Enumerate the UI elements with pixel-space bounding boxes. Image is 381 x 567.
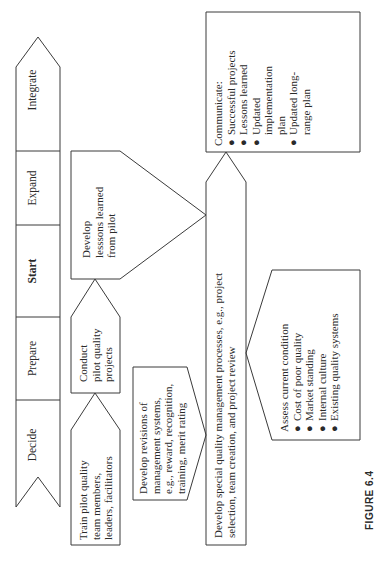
lessons-line: Develop [80,187,93,258]
diagram-shapes [0,0,381,567]
bullet-icon: ● [303,421,316,432]
lessons-box: Develop lesssons learned from pilot [80,187,118,258]
stage-arrow-bar [16,37,60,507]
assess-bullet: ●Market standing [303,313,316,432]
conduct-line: projects [102,329,115,382]
conduct-box: Conduct pilot quality projects [77,329,115,382]
bullet-icon: ● [225,135,238,146]
processes-box: Develop special quality management proce… [212,273,237,538]
lessons-line: from pilot [105,187,118,258]
figure-caption: FIGURE 6.4 [364,471,375,530]
bullet-icon: ● [316,421,329,432]
bullet-icon: ● [328,421,341,432]
train-box: Train pilot quality team members, leader… [77,456,115,540]
conduct-line: Conduct [77,329,90,382]
processes-line: selection, team creation, and project re… [225,273,238,538]
revisions-line: training, merit rating [175,384,188,494]
train-line: leaders, facilitators [102,456,115,540]
train-line: team members, [90,456,103,540]
train-line: Train pilot quality [77,456,90,540]
communicate-bullet: ●Successful projects [225,50,238,146]
stage-expand: Expand [26,151,38,225]
stage-prepare: Prepare [26,317,38,400]
communicate-box: Communicate: ●Successful projects ●Lesso… [212,50,312,146]
assess-bullet: ●Cost of poor quality [291,313,304,432]
stage-decide: Decide [26,400,38,490]
conduct-line: pilot quality [90,329,103,382]
bullet-icon: ● [250,135,263,146]
processes-line: Develop special quality management proce… [212,273,225,538]
communicate-bullet: ●Lessons learned [237,50,250,146]
revisions-line: management systems, [150,384,163,494]
communicate-title: Communicate: [212,50,225,146]
revisions-line: e.g., reward, recognition, [162,384,175,494]
communicate-bullet: ●Updatedimplementationplan [250,50,288,146]
stage-start: Start [26,225,38,317]
assess-bullet: ●Internal culture [316,313,329,432]
stage-integrate: Integrate [26,52,38,128]
assess-bullet: ●Existing quality systems [328,313,341,432]
revisions-line: Develop revisions of [137,384,150,494]
assess-title: Assess current condition [278,313,291,432]
bullet-icon: ● [287,135,300,146]
assess-box: Assess current condition ●Cost of poor q… [278,313,341,432]
lessons-line: lesssons learned [93,187,106,258]
bullet-icon: ● [237,135,250,146]
revisions-box: Develop revisions of management systems,… [137,384,187,494]
communicate-bullet: ●Updated long-range plan [287,50,312,146]
bullet-icon: ● [291,421,304,432]
